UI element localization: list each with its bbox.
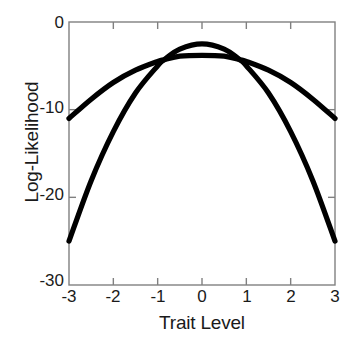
- x-tick-label-neg3: -3: [49, 288, 89, 305]
- y-axis-title: Log-Likelihood: [21, 22, 43, 262]
- x-axis-title: Trait Level: [69, 312, 335, 334]
- x-tick-label-1: 1: [227, 288, 267, 305]
- x-tick-label-0: 0: [182, 288, 222, 305]
- axis-frame: [69, 22, 335, 285]
- plot-frame: [69, 22, 335, 285]
- data-curves: [69, 44, 335, 241]
- curve-flat-likelihood: [69, 55, 335, 118]
- y-tick-label-30: -30: [4, 272, 64, 289]
- chart-figure: 0 -10 -20 -30 -3 -2 -1 0 1 2 3 Log-Likel…: [0, 0, 358, 342]
- x-tick-label-neg1: -1: [138, 288, 178, 305]
- x-tick-label-3: 3: [315, 288, 355, 305]
- x-tick-label-neg2: -2: [93, 288, 133, 305]
- tick-marks: [69, 22, 335, 285]
- x-tick-label-2: 2: [271, 288, 311, 305]
- curve-peaked-likelihood: [69, 44, 335, 241]
